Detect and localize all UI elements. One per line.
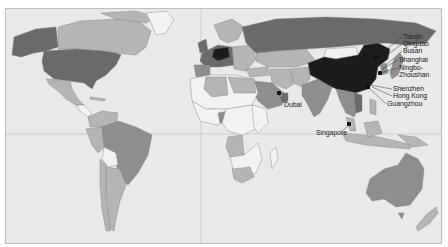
region-turkey bbox=[246, 67, 270, 77]
port-label-ningbo-line2: Zhoushan bbox=[399, 71, 429, 78]
region-new-zealand bbox=[416, 207, 438, 231]
region-central-america bbox=[76, 105, 92, 117]
port-label-tianjin: Tianjin bbox=[403, 33, 423, 40]
region-caribbean bbox=[90, 97, 106, 101]
region-peru bbox=[86, 127, 104, 153]
region-iberia bbox=[194, 65, 210, 77]
port-label-shanghai: Shanghai bbox=[399, 56, 428, 63]
port-label-guangzhou: Guangzhou bbox=[387, 100, 422, 107]
region-borneo bbox=[364, 121, 382, 137]
region-scandinavia bbox=[214, 19, 244, 43]
region-philippines bbox=[370, 99, 376, 115]
region-south-africa bbox=[232, 167, 254, 183]
region-tasmania bbox=[398, 213, 404, 219]
port-label-busan: Busan bbox=[403, 47, 422, 54]
port-label-dubai: Dubai bbox=[284, 101, 302, 108]
port-marker-tianjin bbox=[374, 55, 378, 59]
port-label-hong-kong: Hong Kong bbox=[393, 92, 427, 99]
region-madagascar bbox=[270, 147, 278, 169]
region-mexico bbox=[46, 79, 84, 105]
port-label-shenzhen: Shenzhen bbox=[393, 85, 424, 92]
map-canvas bbox=[6, 9, 442, 244]
port-marker-shanghai bbox=[378, 71, 382, 75]
world-map: Tianjin Qingdao Busan Shanghai Ningbo- Z… bbox=[5, 8, 442, 244]
port-marker-shenzhen bbox=[366, 85, 370, 89]
port-label-singapore: Singapore bbox=[316, 129, 347, 136]
port-marker-singapore bbox=[347, 122, 351, 126]
port-marker-dubai bbox=[277, 91, 281, 95]
port-label-qingdao: Qingdao bbox=[403, 40, 429, 47]
port-label-ningbo-line1: Ningbo- bbox=[399, 64, 423, 71]
region-angola bbox=[226, 135, 244, 157]
region-australia bbox=[366, 153, 424, 207]
